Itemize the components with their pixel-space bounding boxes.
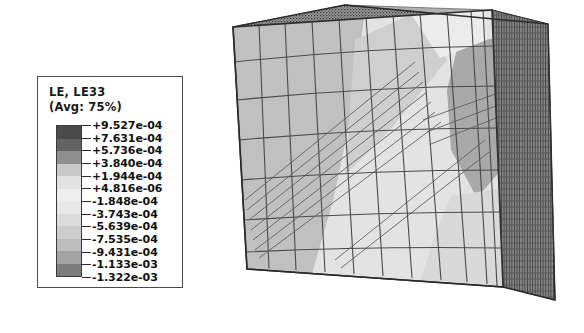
legend-value-4: +1.944e-04	[92, 169, 162, 182]
legend-tick-3	[82, 163, 91, 164]
colorbar-band-2	[57, 151, 81, 164]
legend-value-10: -9.431e-04	[92, 245, 158, 258]
legend-value-1: +7.631e-04	[92, 131, 162, 144]
colorbar-band-4	[57, 176, 81, 189]
legend-tick-1	[82, 138, 91, 139]
legend-value-0: +9.527e-04	[92, 119, 162, 132]
legend-value-list: +9.527e-04+7.631e-04+5.736e-04+3.840e-04…	[92, 122, 176, 280]
legend-tick-marks	[82, 125, 92, 277]
legend-tick-11	[82, 264, 91, 265]
colorbar-band-7	[57, 214, 81, 227]
legend-tick-12	[82, 277, 91, 278]
legend-value-8: -5.639e-04	[92, 220, 158, 233]
legend-value-2: +5.736e-04	[92, 144, 162, 157]
legend-tick-8	[82, 226, 91, 227]
legend-value-7: -3.743e-04	[92, 207, 158, 220]
legend-tick-4	[82, 176, 91, 177]
colorbar-band-9	[57, 239, 81, 252]
cube-model	[215, 0, 584, 333]
legend-value-11: -1.133e-03	[92, 258, 158, 271]
legend-title-block: LE, LE33 (Avg: 75%)	[49, 85, 122, 114]
legend-panel: LE, LE33 (Avg: 75%) +9.527e-04+7.631e-04…	[37, 76, 183, 288]
legend-value-5: +4.816e-06	[92, 182, 162, 195]
cube-front-face	[233, 10, 503, 287]
legend-value-6: -1.848e-04	[92, 195, 158, 208]
legend-tick-0	[82, 125, 91, 126]
legend-field-name: LE, LE33	[49, 85, 122, 100]
colorbar-band-0	[57, 126, 81, 139]
colorbar	[56, 125, 82, 277]
colorbar-band-1	[57, 139, 81, 152]
legend-tick-2	[82, 150, 91, 151]
legend-tick-7	[82, 214, 91, 215]
legend-tick-9	[82, 239, 91, 240]
legend-tick-10	[82, 252, 91, 253]
colorbar-band-5	[57, 189, 81, 202]
legend-value-9: -7.535e-04	[92, 233, 158, 246]
legend-value-12: -1.322e-03	[92, 271, 158, 284]
legend-averaging-label: (Avg: 75%)	[49, 100, 122, 115]
legend-value-3: +3.840e-04	[92, 157, 162, 170]
colorbar-band-8	[57, 226, 81, 239]
model-viewport	[215, 0, 584, 333]
contour-plot-canvas: LE, LE33 (Avg: 75%) +9.527e-04+7.631e-04…	[0, 0, 584, 333]
legend-color-scale: +9.527e-04+7.631e-04+5.736e-04+3.840e-04…	[50, 122, 174, 280]
legend-tick-5	[82, 188, 91, 189]
colorbar-band-6	[57, 201, 81, 214]
colorbar-band-3	[57, 164, 81, 177]
colorbar-band-10	[57, 251, 81, 264]
legend-tick-6	[82, 201, 91, 202]
colorbar-band-11	[57, 264, 81, 277]
